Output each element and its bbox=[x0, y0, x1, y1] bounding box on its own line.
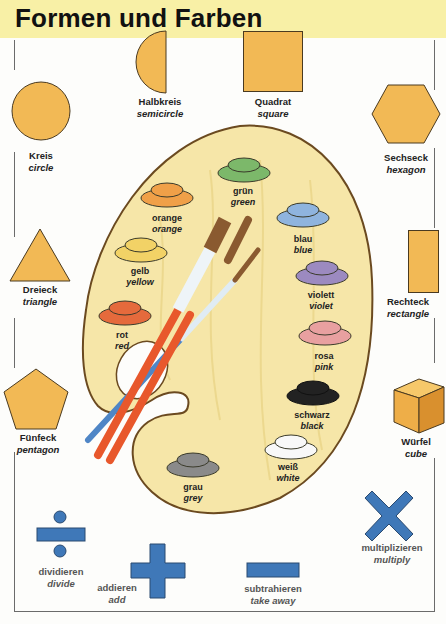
paint-label-red: rotred bbox=[115, 330, 129, 352]
paint-label-white: weißwhite bbox=[276, 462, 299, 484]
minus-icon bbox=[246, 562, 300, 578]
paint-label-orange: orangeorange bbox=[152, 213, 182, 235]
math-label-subtract: subtrahierentake away bbox=[238, 583, 308, 607]
paint-label-grey: graugrey bbox=[183, 482, 203, 504]
frame-line-right-3 bbox=[434, 458, 435, 612]
math-label-multiply: multiplizierenmultiply bbox=[354, 542, 430, 566]
paint-blob-green bbox=[217, 155, 271, 183]
paint-blob-orange bbox=[140, 180, 194, 208]
frame-line-left-2 bbox=[14, 318, 15, 368]
frame-line-left-3 bbox=[14, 452, 15, 612]
divide-icon bbox=[36, 510, 86, 558]
paint-label-violet: violettviolet bbox=[308, 290, 335, 312]
paint-blob-blue bbox=[276, 200, 330, 228]
frame-line-right-top bbox=[434, 40, 435, 90]
frame-line-left-top bbox=[14, 40, 15, 70]
paint-label-green: grüngreen bbox=[231, 186, 256, 208]
paint-blob-black bbox=[286, 378, 340, 406]
paint-blob-grey bbox=[166, 450, 220, 478]
math-label-divide: dividierendivide bbox=[26, 566, 96, 590]
hexagon-icon bbox=[371, 84, 441, 144]
frame-line-bottom bbox=[14, 611, 435, 612]
paint-label-yellow: gelbyellow bbox=[126, 266, 154, 288]
math-label-add: addierenadd bbox=[92, 582, 142, 606]
paint-blob-red bbox=[98, 298, 152, 326]
square-icon bbox=[243, 31, 304, 93]
rectangle-icon bbox=[408, 230, 440, 294]
cube-icon bbox=[393, 378, 445, 434]
paint-blob-violet bbox=[295, 258, 349, 286]
paint-blob-yellow bbox=[114, 235, 168, 263]
paint-label-black: schwarzblack bbox=[294, 410, 330, 432]
shape-label-square: Quadratsquare bbox=[238, 96, 308, 120]
frame-line-right-2 bbox=[434, 318, 435, 363]
paint-blob-white bbox=[264, 432, 318, 460]
shape-label-cube: Würfelcube bbox=[386, 436, 446, 460]
multiply-icon bbox=[364, 490, 414, 542]
shape-label-hexagon: Sechseckhexagon bbox=[371, 152, 441, 176]
semicircle-icon bbox=[135, 30, 167, 94]
paint-blob-pink bbox=[298, 318, 352, 346]
shape-label-semicircle: Halbkreissemicircle bbox=[125, 96, 195, 120]
paint-label-pink: rosapink bbox=[314, 351, 333, 373]
paint-label-blue: blaublue bbox=[294, 234, 313, 256]
